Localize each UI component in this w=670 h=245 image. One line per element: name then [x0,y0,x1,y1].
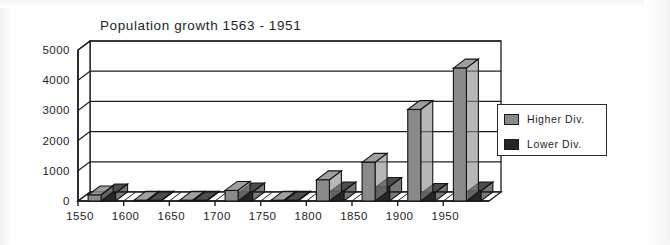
x-tick-label: 1800 [295,210,323,222]
chart-legend: Higher Div. Lower Div. [497,104,607,156]
bar-column [408,100,433,201]
x-tick-label: 1700 [203,210,231,222]
bar-column [362,153,387,201]
x-tick-label: 1550 [66,210,94,222]
x-tick-label: 1950 [432,210,460,222]
chart-figure: Population growth 1563 - 1951 0100020003… [0,0,670,245]
y-tick-label: 3000 [42,104,70,116]
y-tick-label: 4000 [42,74,70,86]
legend-label-higher-div: Higher Div. [527,113,585,125]
legend-item-higher-div: Higher Div. [504,108,606,130]
x-tick-label: 1850 [340,210,368,222]
bar-column [453,59,478,201]
x-tick-label: 1600 [112,210,140,222]
plot-area: 0100020003000400050001550160016501700175… [42,41,501,222]
legend-label-lower-div: Lower Div. [527,138,582,150]
y-tick-label: 2000 [42,135,70,147]
x-tick-label: 1900 [386,210,414,222]
y-tick-label: 0 [63,195,70,207]
legend-swatch-lower-div [504,139,519,150]
x-tick-label: 1650 [158,210,186,222]
y-tick-label: 5000 [42,44,70,56]
x-tick-label: 1750 [249,210,277,222]
y-tick-label: 1000 [42,165,70,177]
legend-item-lower-div: Lower Div. [504,133,606,155]
legend-swatch-higher-div [504,114,519,125]
